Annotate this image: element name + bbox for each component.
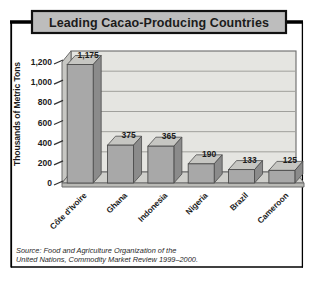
y-tick-label: 800 (38, 97, 52, 107)
bar-front-face (108, 145, 134, 183)
bar-side-face (93, 56, 101, 183)
bar-front-face (148, 146, 174, 183)
cacao-bar-chart: Leading Cacao-Producing Countries 020040… (0, 0, 315, 284)
bar-value-label: 375 (121, 130, 135, 140)
y-tick-label: 400 (38, 138, 52, 148)
figure: Leading Cacao-Producing Countries 020040… (0, 0, 315, 284)
x-category-label: Brazil (228, 191, 250, 213)
y-tick-label: 200 (38, 158, 52, 168)
floor-front-edge (62, 183, 304, 187)
bar-value-label: 125 (283, 155, 297, 165)
bar-value-label: 190 (202, 149, 216, 159)
x-category-label: Côte d'Ivoire (48, 191, 89, 232)
source-line-1: Source: Food and Agriculture Organizatio… (16, 246, 176, 255)
bar-front-face (67, 65, 93, 183)
y-tick-label: 1,200 (31, 57, 53, 67)
bar-front-face (269, 170, 295, 183)
y-axis-title: Thousands of Metric Tons (12, 62, 22, 166)
bar-value-label: 365 (162, 131, 176, 141)
bar-value-label: 1,175 (78, 50, 100, 60)
bar-value-label: 133 (242, 155, 256, 165)
y-tick-label: 600 (38, 118, 52, 128)
chart-title: Leading Cacao-Producing Countries (49, 16, 269, 30)
x-category-label: Cameroon (256, 191, 290, 225)
bar-group: 1,175 (67, 50, 101, 183)
x-category-label: Indonesia (137, 191, 170, 224)
x-category-label: Ghana (105, 191, 129, 215)
y-axis-ticks: 02004006008001,0001,200 (31, 57, 63, 188)
x-category-labels: Côte d'IvoireGhanaIndonesiaNigeriaBrazil… (48, 191, 290, 232)
x-category-label: Nigeria (184, 191, 210, 217)
y-tick-label: 1,000 (31, 77, 53, 87)
source-line-2: United Nations, Commodity Market Review … (16, 255, 198, 264)
bar-front-face (229, 170, 255, 183)
bar-front-face (188, 164, 214, 183)
y-tick-label: 0 (47, 178, 52, 188)
